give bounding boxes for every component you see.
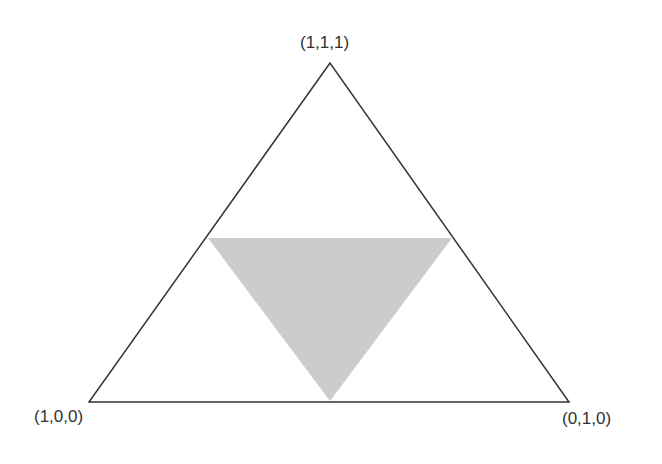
triangle-diagram (0, 0, 662, 464)
vertex-label-top: (1,1,1) (300, 33, 349, 53)
shaded-inner-triangle (208, 238, 452, 401)
vertex-label-bottom-right: (0,1,0) (562, 409, 611, 429)
vertex-label-bottom-left: (1,0,0) (34, 407, 83, 427)
